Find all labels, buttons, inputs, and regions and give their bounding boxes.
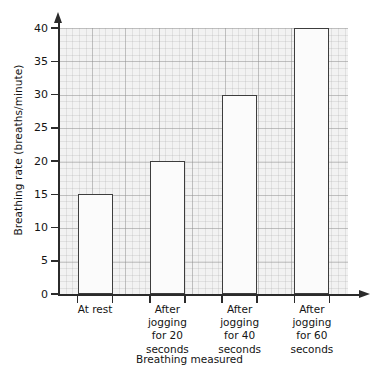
y-axis-tick — [51, 94, 59, 96]
bar — [294, 28, 329, 294]
bar — [222, 95, 257, 295]
y-axis-tick-label: 5 — [41, 255, 48, 266]
y-axis-tick-label: 0 — [41, 289, 48, 300]
x-axis-tick — [329, 295, 331, 303]
y-axis-tick-label: 30 — [34, 89, 48, 100]
x-axis-tick — [77, 295, 79, 303]
x-axis-tick — [184, 295, 186, 303]
y-axis-title: Breathing rate (breaths/minute) — [0, 0, 36, 300]
y-axis-tick — [51, 227, 59, 229]
x-axis-tick — [256, 295, 258, 303]
y-axis-tick-label: 15 — [34, 189, 48, 200]
y-axis-tick — [51, 61, 59, 63]
bar — [78, 194, 113, 294]
y-axis-tick — [51, 260, 59, 262]
y-axis-title-text: Breathing rate (breaths/minute) — [12, 65, 24, 236]
y-axis-arrow-icon — [54, 12, 62, 23]
y-axis-tick-label: 25 — [34, 122, 48, 133]
x-axis-tick — [112, 295, 114, 303]
x-axis-category-label: After jogging for 40 seconds — [204, 303, 276, 356]
x-axis-tick — [221, 295, 223, 303]
y-axis-tick-label: 10 — [34, 222, 48, 233]
x-axis-line — [58, 294, 360, 296]
bar — [150, 161, 185, 294]
bar-chart: Breathing rate (breaths/minute) 05101520… — [0, 0, 379, 374]
y-axis-tick — [51, 160, 59, 162]
y-axis-tick-label: 40 — [34, 23, 48, 34]
x-axis-tick — [149, 295, 151, 303]
y-axis-tick — [51, 127, 59, 129]
x-axis-arrow-icon — [359, 290, 370, 298]
y-axis-tick-label: 35 — [34, 56, 48, 67]
y-axis-line — [58, 22, 60, 296]
y-axis-tick — [51, 27, 59, 29]
x-axis-category-label: After jogging for 20 seconds — [131, 303, 203, 356]
y-axis-tick — [51, 194, 59, 196]
y-axis-tick-label: 20 — [34, 156, 48, 167]
x-axis-category-label: After jogging for 60 seconds — [276, 303, 348, 356]
x-axis-title: Breathing measured — [0, 353, 379, 365]
y-axis-tick — [51, 293, 59, 295]
x-axis-tick — [294, 295, 296, 303]
x-axis-category-label: At rest — [59, 303, 131, 316]
